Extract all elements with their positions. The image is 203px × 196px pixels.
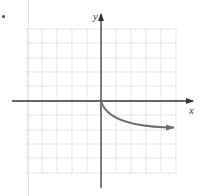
y-axis-label: y <box>93 10 98 22</box>
curve <box>101 101 174 128</box>
graph <box>0 0 203 196</box>
x-axis-label: x <box>189 104 194 116</box>
